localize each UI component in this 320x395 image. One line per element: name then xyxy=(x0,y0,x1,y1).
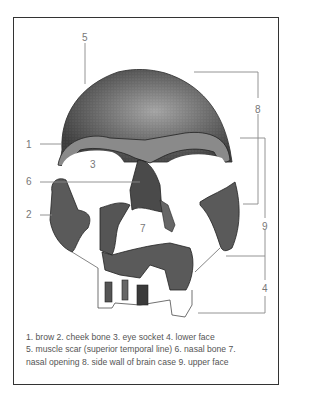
label-4: 4 xyxy=(262,283,268,294)
caption-line: nasal opening 8. side wall of brain case… xyxy=(26,356,276,368)
maxilla-left xyxy=(100,203,130,255)
label-2: 2 xyxy=(26,209,32,220)
figure-caption: 1. brow 2. cheek bone 3. eye socket 4. l… xyxy=(26,331,276,368)
label-1: 1 xyxy=(26,139,32,150)
nasal-septum xyxy=(160,200,175,232)
label-8: 8 xyxy=(255,104,261,115)
tooth xyxy=(137,285,148,305)
label-7: 7 xyxy=(140,223,146,234)
nasal-bone xyxy=(130,160,162,212)
maxilla-lower xyxy=(102,243,193,290)
eye-socket-left xyxy=(62,151,129,197)
tooth xyxy=(122,280,128,300)
label-9: 9 xyxy=(262,221,268,232)
caption-line: 5. muscle scar (superior temporal line) … xyxy=(26,343,276,355)
label-3: 3 xyxy=(90,159,96,170)
label-6: 6 xyxy=(26,176,32,187)
label-5: 5 xyxy=(82,32,88,43)
caption-line: 1. brow 2. cheek bone 3. eye socket 4. l… xyxy=(26,331,276,343)
tooth xyxy=(105,282,112,302)
